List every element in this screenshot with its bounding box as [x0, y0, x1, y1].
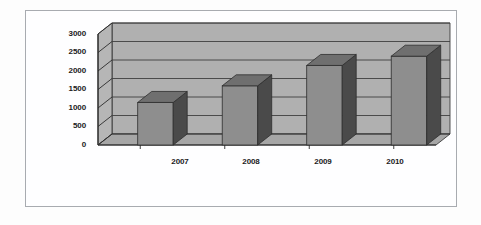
x-axis-category-label: 2009	[303, 157, 343, 166]
y-axis-tick-label: 1000	[44, 103, 86, 112]
bar-chart: 3000 2500 2000 1500 1000 500 0 2007 2008…	[26, 11, 458, 208]
y-axis-tick-label: 0	[44, 140, 86, 149]
bar-2010	[391, 45, 440, 145]
y-axis-tick-label: 1500	[44, 84, 86, 93]
y-axis-tick-label: 2000	[44, 66, 86, 75]
figure-frame: 3000 2500 2000 1500 1000 500 0 2007 2008…	[25, 10, 457, 207]
y-axis-tick-label: 500	[44, 121, 86, 130]
x-axis-category-label: 2007	[160, 157, 200, 166]
y-axis-tick-label: 3000	[44, 29, 86, 38]
bar-2009	[307, 54, 356, 145]
chart-canvas	[26, 11, 458, 208]
bar-2008	[222, 75, 271, 145]
bar-2007	[138, 91, 187, 145]
y-axis-tick-label: 2500	[44, 47, 86, 56]
x-axis-category-label: 2010	[375, 157, 415, 166]
x-axis-category-label: 2008	[231, 157, 271, 166]
